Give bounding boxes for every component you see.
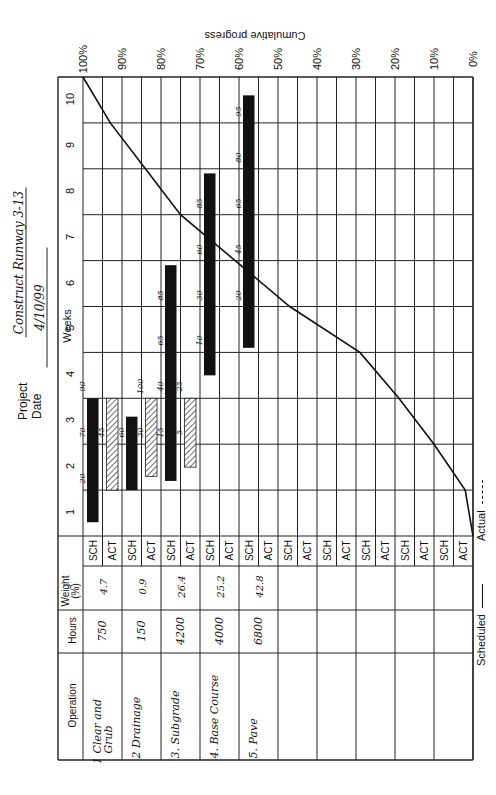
weight-value: 26.4 <box>175 567 186 607</box>
percent-mark: 85 <box>195 193 204 213</box>
percent-mark: 45 <box>234 239 243 259</box>
actual-bar <box>107 398 119 490</box>
progress-axis-label: Cumulative progress <box>180 30 330 42</box>
sch-label: SCH <box>399 537 410 565</box>
weight-value: 42.8 <box>253 567 264 607</box>
hours-value: 750 <box>96 611 108 651</box>
progress-tick: 30% <box>350 39 362 79</box>
week-tick: 8 <box>64 181 76 201</box>
progress-tick: 80% <box>155 39 167 79</box>
week-tick: 1 <box>64 502 76 522</box>
progress-tick: 100% <box>77 39 89 79</box>
legend-scheduled: Scheduled <box>475 576 487 666</box>
act-label: ACT <box>458 537 469 565</box>
week-tick: 7 <box>64 227 76 247</box>
week-tick: 6 <box>64 273 76 293</box>
progress-tick: 40% <box>311 39 323 79</box>
percent-mark: 85 <box>156 285 165 305</box>
percent-mark: 20 <box>234 285 243 305</box>
weight-value: 25.2 <box>214 567 225 607</box>
act-label: ACT <box>419 537 430 565</box>
percent-mark: 5 <box>176 423 185 443</box>
progress-tick: 20% <box>389 39 401 79</box>
percent-mark: 15 <box>156 423 165 443</box>
percent-mark: 65 <box>234 193 243 213</box>
scheduled-bar <box>243 95 255 347</box>
actual-bar <box>185 398 197 467</box>
percent-mark: 90 <box>78 377 87 397</box>
legend-actual-label: Actual <box>475 510 487 541</box>
sch-label: SCH <box>165 537 176 565</box>
operation-name: 2 Drainage <box>130 659 141 759</box>
progress-tick: 60% <box>233 39 245 79</box>
legend-actual: Actual <box>475 471 487 541</box>
hours-header: Hours <box>66 610 77 650</box>
week-tick: 3 <box>64 410 76 430</box>
legend-scheduled-label: Scheduled <box>475 614 487 666</box>
act-label: ACT <box>263 537 274 565</box>
percent-mark: 60 <box>195 239 204 259</box>
percent-mark: 25 <box>176 377 185 397</box>
hours-value: 150 <box>135 611 147 651</box>
percent-mark: 95 <box>234 101 243 121</box>
date-label: Date <box>30 379 44 419</box>
project-label: Project <box>16 370 30 420</box>
scheduled-bar <box>204 173 216 375</box>
progress-tick: 90% <box>116 39 128 79</box>
sch-label: SCH <box>126 537 137 565</box>
sch-label: SCH <box>321 537 332 565</box>
percent-mark: 30 <box>195 285 204 305</box>
sch-label: SCH <box>360 537 371 565</box>
dashed-line-icon <box>482 480 483 504</box>
act-label: ACT <box>107 537 118 565</box>
progress-tick: 70% <box>194 39 206 79</box>
operation-name: 1 Clear and Grub <box>92 664 114 764</box>
operation-name: 4. Base Course <box>208 659 219 759</box>
percent-mark: 10 <box>195 331 204 351</box>
progress-tick: 0% <box>467 39 479 79</box>
percent-mark: 30 <box>137 423 146 443</box>
week-tick: 10 <box>64 89 76 109</box>
hours-value: 4200 <box>174 611 186 651</box>
sch-label: SCH <box>438 537 449 565</box>
week-tick: 2 <box>64 456 76 476</box>
percent-mark: 80 <box>234 147 243 167</box>
percent-mark: 20 <box>78 468 87 488</box>
act-label: ACT <box>380 537 391 565</box>
operation-name: 3. Subgrade <box>169 659 180 759</box>
progress-tick: 10% <box>428 39 440 79</box>
hours-value: 4000 <box>213 611 225 651</box>
percent-mark: 65 <box>156 331 165 351</box>
weight-value: 4.7 <box>97 567 108 607</box>
week-tick: 9 <box>64 135 76 155</box>
solid-line-icon <box>482 584 483 608</box>
sch-label: SCH <box>243 537 254 565</box>
act-label: ACT <box>341 537 352 565</box>
project-value: Construct Runway 3-13 <box>12 188 27 338</box>
percent-mark: 45 <box>98 423 107 443</box>
weight-value: 0.9 <box>136 567 147 607</box>
sch-label: SCH <box>282 537 293 565</box>
scheduled-bar <box>165 265 177 481</box>
sch-label: SCH <box>204 537 215 565</box>
sch-label: SCH <box>87 537 98 565</box>
act-label: ACT <box>224 537 235 565</box>
weight-header: Weight (%) <box>61 571 81 611</box>
act-label: ACT <box>185 537 196 565</box>
progress-tick: 50% <box>272 39 284 79</box>
week-tick: 4 <box>64 364 76 384</box>
hours-value: 6800 <box>252 611 264 651</box>
percent-mark: 100 <box>137 377 146 397</box>
operation-name: 5. Pave <box>247 659 258 759</box>
operation-header: Operation <box>66 665 77 745</box>
weeks-axis-label: Weeks <box>61 301 73 351</box>
date-value: 4/10/99 <box>33 248 48 368</box>
scheduled-bar <box>87 398 99 522</box>
percent-mark: 60 <box>117 423 126 443</box>
act-label: ACT <box>302 537 313 565</box>
percent-mark: 40 <box>156 377 165 397</box>
act-label: ACT <box>146 537 157 565</box>
percent-mark: 70 <box>78 423 87 443</box>
